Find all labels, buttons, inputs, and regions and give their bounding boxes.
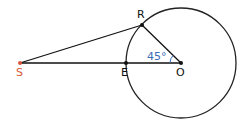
- label-R: R: [137, 8, 145, 21]
- point-R: [140, 23, 144, 27]
- label-O: O: [176, 66, 185, 79]
- label-S: S: [16, 66, 23, 79]
- angle-label: 45°: [147, 50, 167, 63]
- segment-SR: [20, 25, 142, 63]
- point-S: [18, 61, 22, 65]
- point-E: [124, 61, 128, 65]
- geometry-diagram: S E O R 45°: [0, 0, 244, 122]
- label-E: E: [121, 66, 128, 79]
- point-O: [179, 61, 183, 65]
- angle-arc: [170, 55, 173, 63]
